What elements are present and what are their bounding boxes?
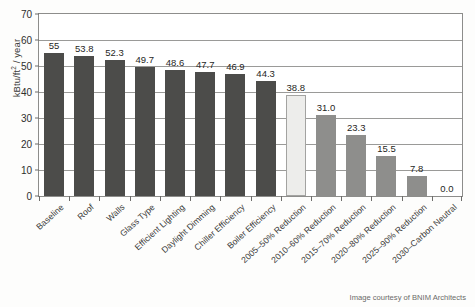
bar-value-label: 46.9 [226,61,245,72]
bar [316,115,336,196]
y-tick-label: 30 [21,113,39,124]
x-tick-mark [281,196,282,201]
bar-value-label: 52.3 [105,47,124,58]
x-tick-mark [341,196,342,201]
x-axis-label: Daylight Dimming [160,202,217,255]
x-tick-mark [160,196,161,201]
bar [74,56,94,196]
x-tick-mark [130,196,131,201]
y-tick-label: 0 [26,191,39,202]
bar [195,72,215,196]
gridline [39,66,462,67]
y-tick-label: 60 [21,35,39,46]
gridline [39,92,462,93]
bar [346,135,366,196]
x-axis-label: Walls [104,202,126,223]
y-tick-label: 50 [21,61,39,72]
bar [135,67,155,196]
x-tick-mark [190,196,191,201]
gridline [39,118,462,119]
bar [225,74,245,196]
x-tick-mark [432,196,433,201]
chart-figure: kBtu/ft2 / year 0102030405060705553.852.… [0,0,475,307]
x-tick-mark [39,196,40,201]
bar [286,95,306,196]
bar-value-label: 38.8 [287,82,306,93]
x-tick-mark [371,196,372,201]
x-axis-label: Roof [76,202,96,222]
bar [407,176,427,196]
bar-value-label: 44.3 [256,68,275,79]
y-tick-label: 40 [21,87,39,98]
bar [165,70,185,196]
x-tick-mark [402,196,403,201]
bar-value-label: 49.7 [136,54,155,65]
bar-value-label: 53.8 [75,43,94,54]
y-tick-label: 70 [21,9,39,20]
x-tick-mark [461,196,462,201]
plot-area: 0102030405060705553.852.349.748.647.746.… [38,13,463,197]
gridline [39,170,462,171]
bar [256,81,276,196]
bar-value-label: 55 [49,40,60,51]
x-tick-mark [99,196,100,201]
image-credit: Image courtesy of BNIM Architects [350,293,466,302]
y-tick-label: 20 [21,139,39,150]
bar-value-label: 48.6 [166,57,185,68]
bar-value-label: 0.0 [440,183,453,194]
y-tick-label: 10 [21,165,39,176]
bar [105,60,125,196]
bar-value-label: 31.0 [317,102,336,113]
gridline [39,144,462,145]
bar-value-label: 15.5 [377,143,396,154]
x-tick-mark [311,196,312,201]
bar [44,53,64,196]
bar-value-label: 7.8 [410,163,423,174]
x-tick-mark [220,196,221,201]
gridline [39,40,462,41]
bar-value-label: 47.7 [196,59,215,70]
bar [376,156,396,196]
bar-value-label: 23.3 [347,122,366,133]
x-tick-mark [69,196,70,201]
x-tick-mark [251,196,252,201]
x-axis-label: Baseline [34,202,65,232]
